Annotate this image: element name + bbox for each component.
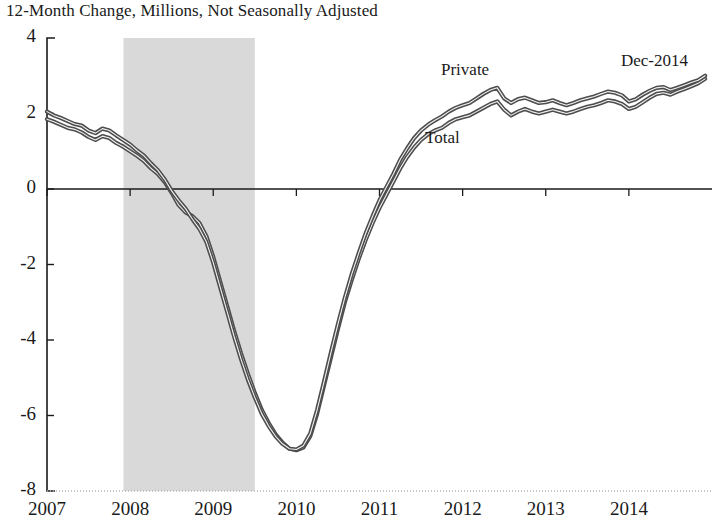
y-axis-tick-label: -8 (2, 478, 36, 500)
x-axis-tick-label: 2009 (178, 498, 248, 520)
chart-plot-area (0, 0, 715, 529)
last-observation-label: Dec-2014 (621, 51, 688, 71)
y-axis-tick-label: 0 (2, 176, 36, 198)
private-series-label: Private (441, 60, 489, 80)
x-axis-tick-label: 2013 (511, 498, 581, 520)
x-axis-tick-label: 2010 (261, 498, 331, 520)
y-axis-tick-label: 4 (2, 25, 36, 47)
x-axis-tick-label: 2008 (95, 498, 165, 520)
recession-band (123, 38, 254, 491)
y-axis-tick-label: -4 (2, 327, 36, 349)
y-axis-tick-label: -6 (2, 403, 36, 425)
total-series-label: Total (425, 128, 460, 148)
y-axis-tick-label: -2 (2, 252, 36, 274)
x-axis-tick-label: 2012 (428, 498, 498, 520)
x-axis-tick-label: 2007 (12, 498, 82, 520)
x-axis-tick-label: 2011 (345, 498, 415, 520)
y-axis-tick-label: 2 (2, 101, 36, 123)
chart-container: 12-Month Change, Millions, Not Seasonall… (0, 0, 715, 529)
x-axis-tick-label: 2014 (594, 498, 664, 520)
